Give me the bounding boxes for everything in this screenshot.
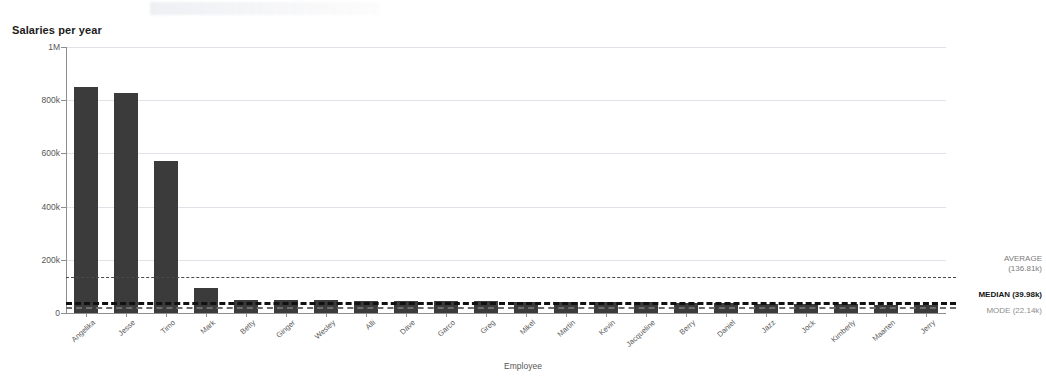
y-axis-tick-label: 600k bbox=[42, 148, 60, 158]
x-axis-tick-label: Timo bbox=[159, 318, 177, 336]
x-axis-tick-mark bbox=[846, 313, 847, 317]
x-axis-tick-mark bbox=[526, 313, 527, 317]
y-axis-tick-mark bbox=[61, 207, 66, 208]
reference-line-average bbox=[66, 277, 956, 278]
x-axis-tick-mark bbox=[166, 313, 167, 317]
x-axis-tick-label: Mikel bbox=[518, 318, 537, 336]
gridline bbox=[66, 100, 946, 101]
y-axis-tick-mark bbox=[61, 100, 66, 101]
x-axis-tick-label: Ginger bbox=[274, 318, 297, 340]
bar[interactable] bbox=[194, 288, 219, 313]
reference-label-value: (136.81k) bbox=[1004, 264, 1042, 274]
x-axis-tick-label: Berry bbox=[678, 318, 697, 337]
x-axis-tick-label: Kevin bbox=[597, 318, 617, 337]
bar[interactable] bbox=[154, 161, 179, 313]
gridline bbox=[66, 47, 946, 48]
x-axis-tick-label: Wesley bbox=[313, 318, 337, 341]
x-axis-tick-mark bbox=[886, 313, 887, 317]
reference-line-label-average: AVERAGE(136.81k) bbox=[1004, 254, 1042, 274]
reference-line-label-mode: MODE (22.14k) bbox=[986, 306, 1042, 315]
x-axis-tick-label: Jock bbox=[800, 318, 817, 335]
salaries-bar-chart: Salaries per year Sum(Salary) 1M800k600k… bbox=[0, 0, 1046, 390]
x-axis-tick-mark bbox=[366, 313, 367, 317]
x-axis-tick-label: Kimberly bbox=[829, 318, 857, 344]
reference-label-text: MEDIAN (39.98k) bbox=[978, 290, 1042, 299]
x-axis-tick-label: Alli bbox=[364, 318, 377, 331]
x-axis-tick-label: Angelika bbox=[70, 318, 97, 344]
x-axis-tick-label: Mark bbox=[199, 318, 217, 336]
x-axis-tick-mark bbox=[646, 313, 647, 317]
x-axis-tick-mark bbox=[606, 313, 607, 317]
x-axis-tick-mark bbox=[766, 313, 767, 317]
x-axis-tick-label: Martin bbox=[556, 318, 578, 339]
gridline bbox=[66, 153, 946, 154]
x-axis-tick-label: Jesse bbox=[116, 318, 137, 338]
x-axis-tick-mark bbox=[926, 313, 927, 317]
x-axis-tick-mark bbox=[126, 313, 127, 317]
x-axis-tick-label: Jazz bbox=[760, 318, 777, 335]
y-axis-tick-label: 0 bbox=[55, 308, 60, 318]
reference-label-text: AVERAGE bbox=[1004, 254, 1042, 264]
x-axis-tick-mark bbox=[726, 313, 727, 317]
x-axis-tick-mark bbox=[286, 313, 287, 317]
reference-line-label-median: MEDIAN (39.98k) bbox=[978, 290, 1042, 299]
x-axis-tick-label: Greg bbox=[479, 318, 497, 336]
x-axis-tick-mark bbox=[566, 313, 567, 317]
x-axis-title: Employee bbox=[0, 361, 1046, 371]
y-axis-tick-mark bbox=[61, 260, 66, 261]
x-axis-tick-label: Daniel bbox=[715, 318, 737, 339]
x-axis-tick-label: Garco bbox=[436, 318, 457, 338]
x-axis-tick-label: Jacqueline bbox=[624, 318, 657, 349]
x-axis-tick-label: Dave bbox=[398, 318, 417, 336]
y-axis-tick-labels: 1M800k600k400k200k0 bbox=[0, 0, 60, 390]
gridline bbox=[66, 207, 946, 208]
y-axis-tick-label: 800k bbox=[42, 95, 60, 105]
y-axis-tick-mark bbox=[61, 47, 66, 48]
reference-line-mode bbox=[66, 307, 956, 309]
x-axis-tick-mark bbox=[326, 313, 327, 317]
y-axis-tick-label: 200k bbox=[42, 255, 60, 265]
y-axis-tick-mark bbox=[61, 153, 66, 154]
x-axis-tick-mark bbox=[686, 313, 687, 317]
reference-label-text: MODE (22.14k) bbox=[986, 306, 1042, 315]
x-axis-tick-mark bbox=[806, 313, 807, 317]
reference-line-median bbox=[66, 302, 956, 305]
x-axis-line bbox=[66, 313, 946, 314]
x-axis-tick-mark bbox=[486, 313, 487, 317]
x-axis-tick-label: Maarten bbox=[871, 318, 897, 343]
x-axis-tick-mark bbox=[86, 313, 87, 317]
bar[interactable] bbox=[114, 93, 139, 313]
x-axis-tick-mark bbox=[446, 313, 447, 317]
x-axis-tick-mark bbox=[406, 313, 407, 317]
plot-area bbox=[66, 47, 946, 313]
x-axis-tick-label: Betty bbox=[238, 318, 257, 336]
y-axis-tick-mark bbox=[61, 313, 66, 314]
gridline bbox=[66, 260, 946, 261]
x-axis-tick-label: Jerry bbox=[919, 318, 937, 336]
y-axis-tick-label: 400k bbox=[42, 202, 60, 212]
bar[interactable] bbox=[74, 87, 99, 313]
y-axis-tick-label: 1M bbox=[48, 42, 60, 52]
x-axis-tick-mark bbox=[206, 313, 207, 317]
x-axis-tick-mark bbox=[246, 313, 247, 317]
y-axis-line bbox=[66, 47, 67, 314]
